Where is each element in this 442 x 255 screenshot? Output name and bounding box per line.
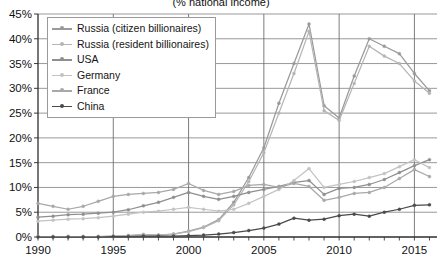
series-marker <box>338 187 341 190</box>
series-marker <box>292 182 295 185</box>
series-marker <box>217 193 220 196</box>
series-marker <box>323 193 326 196</box>
series-marker <box>353 192 356 195</box>
series-marker <box>428 92 431 95</box>
series-marker <box>383 186 386 189</box>
series-marker <box>37 220 40 223</box>
series-marker <box>232 190 235 193</box>
series-marker <box>308 167 311 170</box>
series-marker <box>383 55 386 58</box>
series-marker <box>398 177 401 180</box>
series-marker <box>292 72 295 75</box>
series-marker <box>172 188 175 191</box>
series-marker <box>112 215 115 218</box>
series-marker <box>383 172 386 175</box>
y-axis-tick-label: 45% <box>9 8 32 20</box>
legend-item-2[interactable]: USA <box>52 52 209 68</box>
series-marker <box>368 191 371 194</box>
series-marker <box>97 236 100 239</box>
series-marker <box>97 200 100 203</box>
series-marker <box>37 202 40 205</box>
series-marker <box>67 236 70 239</box>
series-marker <box>112 235 115 238</box>
series-marker <box>202 208 205 211</box>
series-marker <box>398 52 401 55</box>
series-marker <box>142 235 145 238</box>
y-axis-tick-label: 10% <box>9 181 32 193</box>
series-marker <box>67 208 70 211</box>
series-marker <box>353 82 356 85</box>
series-marker <box>52 219 55 222</box>
series-marker <box>277 223 280 226</box>
series-marker <box>97 212 100 215</box>
series-marker <box>398 165 401 168</box>
legend-label: Germany <box>72 70 120 81</box>
legend-label: USA <box>72 54 99 65</box>
legend-item-5[interactable]: China <box>52 99 209 115</box>
series-marker <box>37 216 40 219</box>
series-marker <box>217 219 220 222</box>
series-marker <box>232 195 235 198</box>
series-marker <box>232 208 235 211</box>
y-axis-tick-label: 15% <box>9 157 32 169</box>
series-marker <box>308 219 311 222</box>
series-marker <box>172 235 175 238</box>
legend-item-3[interactable]: Germany <box>52 68 209 84</box>
series-marker <box>413 164 416 167</box>
series-marker <box>232 203 235 206</box>
legend-item-1[interactable]: Russia (resident billionaires) <box>52 37 209 53</box>
series-marker <box>292 62 295 65</box>
series-marker <box>187 230 190 233</box>
y-axis-tick-label: 20% <box>9 132 32 144</box>
y-axis-tick-label: 0% <box>15 231 32 243</box>
series-marker <box>262 195 265 198</box>
series-marker <box>428 166 431 169</box>
series-marker <box>398 62 401 65</box>
y-axis-tick-label: 30% <box>9 82 32 94</box>
y-axis-tick-label: 40% <box>9 33 32 45</box>
series-marker <box>52 215 55 218</box>
legend-label: Russia (citizen billionaires) <box>72 23 201 34</box>
series-marker <box>127 235 130 238</box>
series-marker <box>413 79 416 82</box>
series-marker <box>308 179 311 182</box>
series-marker <box>247 191 250 194</box>
series-marker <box>217 233 220 236</box>
series-marker <box>292 179 295 182</box>
series-marker <box>82 205 85 208</box>
series-marker <box>157 201 160 204</box>
legend-item-0[interactable]: Russia (citizen billionaires) <box>52 21 209 37</box>
series-marker <box>247 202 250 205</box>
series-marker <box>338 196 341 199</box>
series-marker <box>127 193 130 196</box>
series-marker <box>202 234 205 237</box>
series-marker <box>157 191 160 194</box>
series-marker <box>323 218 326 221</box>
series-marker <box>353 186 356 189</box>
series-marker <box>277 186 280 189</box>
y-axis-tick-label: 5% <box>15 206 32 218</box>
x-axis-tick-label: 2015 <box>402 244 428 255</box>
legend-marker-icon <box>52 101 72 112</box>
series-marker <box>353 213 356 216</box>
series-marker <box>67 218 70 221</box>
series-marker <box>262 151 265 154</box>
series-marker <box>323 186 326 189</box>
series-marker <box>428 175 431 178</box>
series-marker <box>338 119 341 122</box>
legend-item-4[interactable]: France <box>52 83 209 99</box>
series-marker <box>187 234 190 237</box>
series-marker <box>142 211 145 214</box>
legend-label: France <box>72 85 110 96</box>
series-marker <box>413 72 416 75</box>
legend-marker-icon <box>52 54 72 65</box>
series-marker <box>323 109 326 112</box>
series-marker <box>383 211 386 214</box>
series-marker <box>353 180 356 183</box>
legend-marker-icon <box>52 23 72 34</box>
series-marker <box>368 45 371 48</box>
x-axis-tick-label: 1995 <box>100 244 126 255</box>
legend-label: China <box>72 101 104 112</box>
series-marker <box>232 231 235 234</box>
series-marker <box>277 112 280 115</box>
